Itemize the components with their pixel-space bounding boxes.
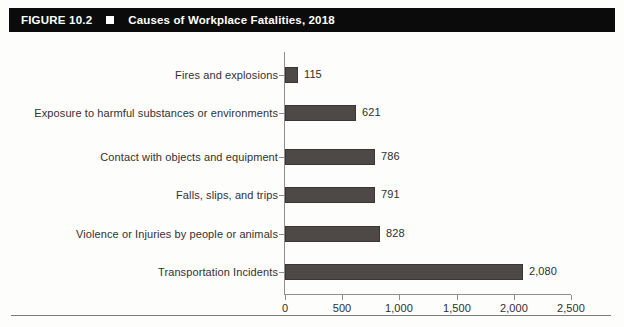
square-bullet-icon xyxy=(106,16,114,24)
x-axis-tick-label: 2,000 xyxy=(500,302,528,314)
x-axis-tick xyxy=(285,295,286,300)
figure-container: FIGURE 10.2 Causes of Workplace Fataliti… xyxy=(0,0,624,327)
chart-plot-area: Fires and explosions115Exposure to harmf… xyxy=(0,44,624,294)
bar-value-label: 791 xyxy=(381,188,400,200)
y-axis-tick xyxy=(279,157,284,158)
bar xyxy=(285,105,356,121)
bar-row: Contact with objects and equipment786 xyxy=(0,137,624,177)
x-axis-tick-label: 1,000 xyxy=(385,302,413,314)
x-axis-tick-label: 1,500 xyxy=(443,302,471,314)
bottom-divider xyxy=(11,315,611,316)
figure-number: FIGURE 10.2 xyxy=(21,14,92,26)
bar-value-label: 115 xyxy=(304,68,322,80)
bar xyxy=(285,149,375,165)
y-axis-tick xyxy=(279,75,284,76)
bar xyxy=(285,187,375,203)
bar-row: Fires and explosions115 xyxy=(0,55,624,95)
bar xyxy=(285,67,298,83)
category-label: Exposure to harmful substances or enviro… xyxy=(18,107,278,119)
bar-row: Exposure to harmful substances or enviro… xyxy=(0,93,624,133)
bar-row: Violence or Injuries by people or animal… xyxy=(0,214,624,254)
category-label: Contact with objects and equipment xyxy=(18,151,278,163)
bar-rows: Fires and explosions115Exposure to harmf… xyxy=(0,44,624,294)
category-label: Violence or Injuries by people or animal… xyxy=(18,228,278,240)
x-axis-tick xyxy=(399,295,400,300)
bar-value-label: 786 xyxy=(381,150,400,162)
bar-value-label: 621 xyxy=(362,106,381,118)
y-axis-tick xyxy=(279,272,284,273)
bar-value-label: 828 xyxy=(386,227,405,239)
x-axis-tick xyxy=(342,295,343,300)
category-label: Fires and explosions xyxy=(18,69,278,81)
bar-value-label: 2,080 xyxy=(529,265,557,277)
y-axis-tick xyxy=(279,113,284,114)
x-axis-tick xyxy=(571,295,572,300)
y-axis-tick xyxy=(279,234,284,235)
x-axis-tick-label: 2,500 xyxy=(557,302,585,314)
bar xyxy=(285,264,523,280)
bar-row: Falls, slips, and trips791 xyxy=(0,175,624,215)
category-label: Falls, slips, and trips xyxy=(18,189,278,201)
y-axis-tick xyxy=(279,195,284,196)
x-axis-tick xyxy=(514,295,515,300)
x-axis-ticks: 05001,0001,5002,0002,500 xyxy=(0,295,624,325)
bar-row: Transportation Incidents2,080 xyxy=(0,252,624,292)
x-axis-tick-label: 0 xyxy=(282,302,288,314)
x-axis-tick xyxy=(457,295,458,300)
x-axis-tick-label: 500 xyxy=(333,302,352,314)
category-label: Transportation Incidents xyxy=(18,266,278,278)
bar xyxy=(285,226,380,242)
figure-title: Causes of Workplace Fatalities, 2018 xyxy=(128,14,335,26)
figure-header-bar: FIGURE 10.2 Causes of Workplace Fataliti… xyxy=(9,8,615,32)
